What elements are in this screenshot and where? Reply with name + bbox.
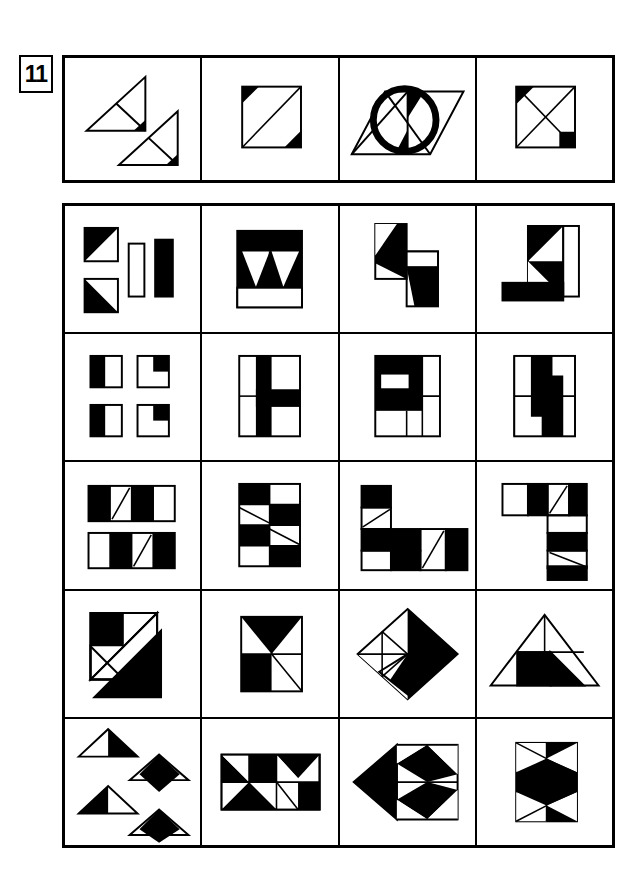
answer-cell-r3c1[interactable] (65, 462, 202, 588)
answer-cell-r5c3[interactable] (340, 719, 477, 845)
answer-cell-r1c1[interactable] (65, 206, 202, 332)
answer-cell-r2c1[interactable] (65, 334, 202, 460)
figure-stepped-black-white-strip (340, 462, 475, 588)
grid-row-5 (65, 719, 612, 845)
figure-seven-shaped-strip (477, 462, 612, 588)
answer-cell-r4c1[interactable] (65, 591, 202, 717)
figure-parallelogram-with-circle (340, 58, 475, 180)
figure-four-quartered-squares (65, 334, 200, 460)
figure-tangram-rectangle-strip (202, 719, 337, 845)
answer-cell-r5c4[interactable] (477, 719, 612, 845)
worksheet-page: 11 (0, 0, 642, 891)
answer-cell-r4c2[interactable] (202, 591, 339, 717)
puzzle-number-badge: 11 (19, 55, 53, 93)
answer-cell-r2c3[interactable] (340, 334, 477, 460)
example-figures-row (62, 55, 615, 183)
figure-arrow-with-diamonds (340, 719, 475, 845)
answer-cell-r5c1[interactable] (65, 719, 202, 845)
grid-row-2 (65, 334, 612, 462)
example-cell-4[interactable] (477, 58, 612, 180)
figure-bowtie-square (477, 719, 612, 845)
answer-cell-r4c4[interactable] (477, 591, 612, 717)
figure-square-x-black-corners (477, 58, 612, 180)
answer-cell-r2c4[interactable] (477, 334, 612, 460)
grid-row-1 (65, 206, 612, 334)
figure-two-triangles-with-black-corners (65, 58, 200, 180)
answer-cell-r4c3[interactable] (340, 591, 477, 717)
answer-figures-grid (62, 203, 615, 848)
figure-two-striped-bars (65, 462, 200, 588)
figure-s-offset-rectangles (340, 206, 475, 332)
answer-cell-r5c2[interactable] (202, 719, 339, 845)
answer-cell-r1c2[interactable] (202, 206, 339, 332)
figure-two-half-black-squares-and-bars (65, 206, 200, 332)
figure-tangram-square-and-triangles (65, 591, 200, 717)
answer-cell-r2c2[interactable] (202, 334, 339, 460)
answer-cell-r3c2[interactable] (202, 462, 339, 588)
figure-diamond-quadrants (340, 591, 475, 717)
example-cell-2[interactable] (202, 58, 339, 180)
answer-cell-r3c3[interactable] (340, 462, 477, 588)
figure-black-cross-bar-square (202, 334, 337, 460)
example-cell-3[interactable] (340, 58, 477, 180)
example-cell-1[interactable] (65, 58, 202, 180)
puzzle-number-label: 11 (25, 63, 47, 86)
figure-checkerboard-with-diagonals (202, 462, 337, 588)
figure-square-diagonal-black-corners (202, 58, 337, 180)
figure-large-triangle-with-black-square (477, 591, 612, 717)
figure-l-shape-with-triangles (477, 206, 612, 332)
grid-row-3 (65, 462, 612, 590)
figure-black-square-with-white-v (202, 206, 337, 332)
answer-cell-r1c4[interactable] (477, 206, 612, 332)
grid-row-4 (65, 591, 612, 719)
figure-pinwheel-square (202, 591, 337, 717)
figure-four-triangles-with-diamonds (65, 719, 200, 845)
answer-cell-r3c4[interactable] (477, 462, 612, 588)
answer-cell-r1c3[interactable] (340, 206, 477, 332)
figure-black-s-zigzag-square (477, 334, 612, 460)
figure-black-c-spiral-square (340, 334, 475, 460)
